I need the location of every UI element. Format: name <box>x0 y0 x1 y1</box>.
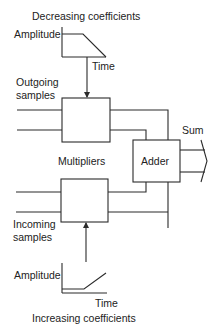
sum-output: Sum <box>180 124 207 182</box>
adder-label: Adder <box>141 155 170 167</box>
crossfade-diagram: Decreasing coefficients Amplitude Time O… <box>0 0 215 334</box>
decreasing-coefficients-graph: Decreasing coefficients Amplitude Time <box>14 10 140 72</box>
incoming-samples-label-line1: Incoming <box>13 218 56 230</box>
decreasing-ramp-curve <box>62 34 106 57</box>
incoming-samples-label-line2: samples <box>13 231 52 243</box>
increasing-coefficients-graph: Amplitude Time Increasing coefficients <box>14 263 136 324</box>
multipliers-label: Multipliers <box>58 155 105 167</box>
bottom-multiplier <box>16 179 108 222</box>
bottom-time-label: Time <box>95 297 118 309</box>
outgoing-samples-label-line1: Outgoing <box>16 76 59 88</box>
increasing-ramp-curve <box>62 273 106 289</box>
top-multiplier-box <box>62 98 110 142</box>
adder: Adder <box>133 140 180 182</box>
sum-label: Sum <box>182 124 204 136</box>
top-amplitude-label: Amplitude <box>14 28 61 40</box>
bottom-amplitude-label: Amplitude <box>14 269 61 281</box>
top-time-label: Time <box>92 60 115 72</box>
sum-bus-chevron-icon <box>201 140 207 182</box>
decreasing-coefficients-title: Decreasing coefficients <box>32 10 140 22</box>
outgoing-samples-label-line2: samples <box>16 89 55 101</box>
top-mult-out2-to-adder <box>110 130 146 140</box>
increasing-coefficients-title: Increasing coefficients <box>32 312 136 324</box>
top-multiplier <box>17 98 110 142</box>
bottom-multiplier-box <box>61 179 108 222</box>
bottom-mult-out1-to-adder <box>108 182 146 192</box>
